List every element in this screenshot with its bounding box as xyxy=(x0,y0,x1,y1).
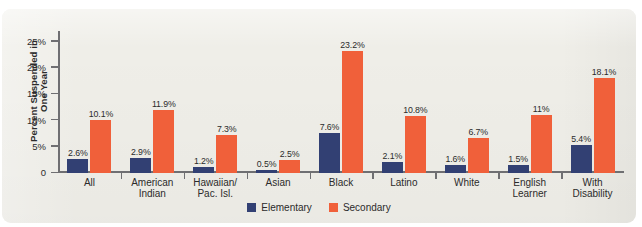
bar-group: 1.6%6.7%White xyxy=(435,31,498,173)
bar-groups: 2.6%10.1%All2.9%11.9%American Indian1.2%… xyxy=(58,31,624,173)
x-axis-category-label: With Disability xyxy=(561,177,624,200)
y-axis-tick-label: 5% xyxy=(32,141,46,152)
bar-elementary[interactable]: 5.4% xyxy=(571,145,592,173)
y-axis-tick-label: 10% xyxy=(27,114,46,125)
bar-value-label: 2.9% xyxy=(131,147,151,157)
x-axis-category-label: American Indian xyxy=(121,177,184,200)
bar-secondary[interactable]: 23.2% xyxy=(342,51,363,173)
bar-group-bars: 1.6%6.7% xyxy=(435,31,498,173)
bar-value-label: 1.2% xyxy=(194,156,214,166)
bar-value-label: 5.4% xyxy=(571,134,591,144)
bar-elementary[interactable]: 1.6% xyxy=(445,165,466,173)
bar-elementary[interactable]: 1.5% xyxy=(508,165,529,173)
bar-group-bars: 2.6%10.1% xyxy=(58,31,121,173)
bar-group: 2.1%10.8%Latino xyxy=(372,31,435,173)
legend-item-secondary[interactable]: Secondary xyxy=(329,202,391,213)
chart-panel: Percent Suspended in One Year 05%10%15%2… xyxy=(2,9,636,223)
bar-value-label: 7.3% xyxy=(217,124,237,134)
bar-value-label: 2.1% xyxy=(383,151,403,161)
bar-group: 5.4%18.1%With Disability xyxy=(561,31,624,173)
x-axis-category-label: Hawaiian/ Pac. Isl. xyxy=(184,177,247,200)
x-axis-category-label: Black xyxy=(310,177,373,188)
bar-value-label: 0.5% xyxy=(257,159,277,169)
bar-group: 2.6%10.1%All xyxy=(58,31,121,173)
chart-legend: ElementarySecondary xyxy=(2,202,636,213)
bar-secondary[interactable]: 6.7% xyxy=(468,138,489,173)
bar-group: 1.2%7.3%Hawaiian/ Pac. Isl. xyxy=(184,31,247,173)
x-axis-category-label: White xyxy=(435,177,498,188)
bar-secondary[interactable]: 18.1% xyxy=(594,78,615,173)
bar-secondary[interactable]: 10.8% xyxy=(405,116,426,173)
bar-secondary[interactable]: 10.1% xyxy=(90,120,111,173)
bar-elementary[interactable]: 1.2% xyxy=(193,167,214,173)
bar-elementary[interactable]: 0.5% xyxy=(256,170,277,173)
bar-value-label: 7.6% xyxy=(320,122,340,132)
bar-group-bars: 7.6%23.2% xyxy=(310,31,373,173)
bar-value-label: 11.9% xyxy=(152,99,176,109)
bar-group: 7.6%23.2%Black xyxy=(310,31,373,173)
y-axis-tick-label: 0 xyxy=(41,167,46,178)
bar-elementary[interactable]: 2.9% xyxy=(130,158,151,173)
bar-elementary[interactable]: 7.6% xyxy=(319,133,340,173)
y-axis-tick-label: 20% xyxy=(27,62,46,73)
bar-secondary[interactable]: 2.5% xyxy=(279,160,300,173)
bar-value-label: 6.7% xyxy=(468,127,488,137)
bar-value-label: 10.1% xyxy=(89,109,113,119)
bar-value-label: 18.1% xyxy=(592,67,616,77)
bar-group-bars: 1.2%7.3% xyxy=(184,31,247,173)
bar-value-label: 2.5% xyxy=(280,149,300,159)
legend-item-elementary[interactable]: Elementary xyxy=(247,202,312,213)
x-axis-category-label: All xyxy=(58,177,121,188)
x-axis-category-label: Latino xyxy=(372,177,435,188)
bar-value-label: 23.2% xyxy=(340,40,364,50)
bar-value-label: 11% xyxy=(533,104,550,114)
bar-group: 0.5%2.5%Asian xyxy=(247,31,310,173)
bar-group-bars: 5.4%18.1% xyxy=(561,31,624,173)
bar-value-label: 10.8% xyxy=(403,105,427,115)
plot-area: 05%10%15%20%25% 2.6%10.1%All2.9%11.9%Ame… xyxy=(58,31,624,173)
bar-group-bars: 2.1%10.8% xyxy=(372,31,435,173)
page-top-sliver xyxy=(0,0,642,9)
bar-secondary[interactable]: 7.3% xyxy=(216,135,237,173)
bar-group-bars: 2.9%11.9% xyxy=(121,31,184,173)
bar-group-bars: 1.5%11% xyxy=(498,31,561,173)
y-axis-tick-label: 25% xyxy=(27,35,46,46)
bar-group: 1.5%11%English Learner xyxy=(498,31,561,173)
bar-elementary[interactable]: 2.1% xyxy=(382,162,403,173)
legend-label: Elementary xyxy=(261,202,312,213)
y-axis-tick-label: 15% xyxy=(27,88,46,99)
bar-elementary[interactable]: 2.6% xyxy=(67,159,88,173)
x-axis-category-label: English Learner xyxy=(498,177,561,200)
cropped-caption-text xyxy=(8,0,11,3)
x-axis-category-label: Asian xyxy=(247,177,310,188)
bar-secondary[interactable]: 11.9% xyxy=(153,110,174,173)
bar-group-bars: 0.5%2.5% xyxy=(247,31,310,173)
legend-swatch-icon xyxy=(247,203,256,212)
bar-value-label: 2.6% xyxy=(68,148,88,158)
legend-swatch-icon xyxy=(329,203,338,212)
bar-value-label: 1.5% xyxy=(508,154,528,164)
bar-secondary[interactable]: 11% xyxy=(531,115,552,173)
bar-group: 2.9%11.9%American Indian xyxy=(121,31,184,173)
bar-value-label: 1.6% xyxy=(445,154,465,164)
legend-label: Secondary xyxy=(343,202,391,213)
